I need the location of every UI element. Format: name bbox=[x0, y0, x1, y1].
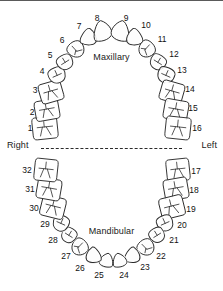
tooth-number-2: 2 bbox=[30, 107, 35, 117]
tooth-number-12: 12 bbox=[169, 49, 178, 59]
tooth-number-5: 5 bbox=[48, 50, 53, 60]
dental-arch-chart: Maxillary Mandibular Right Left 12345678… bbox=[0, 0, 223, 291]
tooth-16[interactable] bbox=[164, 116, 191, 141]
tooth-number-29: 29 bbox=[40, 219, 49, 229]
tooth-number-10: 10 bbox=[141, 20, 150, 30]
tooth-32[interactable] bbox=[33, 158, 58, 183]
tooth-number-32: 32 bbox=[22, 165, 31, 175]
tooth-crown-outline bbox=[164, 116, 191, 140]
tooth-number-30: 30 bbox=[29, 203, 38, 213]
tooth-number-1: 1 bbox=[28, 123, 33, 133]
tooth-number-21: 21 bbox=[169, 235, 178, 245]
tooth-number-6: 6 bbox=[60, 35, 65, 45]
tooth-number-20: 20 bbox=[177, 220, 186, 230]
tooth-number-22: 22 bbox=[156, 251, 165, 261]
tooth-number-15: 15 bbox=[188, 103, 197, 113]
tooth-number-25: 25 bbox=[94, 270, 103, 280]
tooth-number-14: 14 bbox=[185, 84, 194, 94]
tooth-number-26: 26 bbox=[75, 263, 84, 273]
tooth-number-11: 11 bbox=[158, 34, 167, 44]
tooth-number-16: 16 bbox=[192, 123, 201, 133]
midline-divider bbox=[41, 148, 182, 149]
maxillary-arch-label: Maxillary bbox=[0, 52, 223, 62]
tooth-crown-outline bbox=[33, 158, 58, 182]
tooth-number-18: 18 bbox=[189, 185, 198, 195]
right-side-label: Right bbox=[7, 140, 29, 150]
tooth-crown-outline bbox=[37, 79, 65, 105]
teeth-drawing-layer bbox=[0, 0, 223, 291]
tooth-number-7: 7 bbox=[77, 21, 82, 31]
tooth-number-28: 28 bbox=[48, 235, 57, 245]
tooth-number-27: 27 bbox=[61, 251, 70, 261]
tooth-number-24: 24 bbox=[119, 270, 128, 280]
tooth-3[interactable] bbox=[37, 79, 65, 105]
tooth-number-17: 17 bbox=[191, 166, 200, 176]
tooth-number-13: 13 bbox=[177, 65, 186, 75]
tooth-number-23: 23 bbox=[140, 262, 149, 272]
tooth-number-31: 31 bbox=[25, 184, 34, 194]
left-side-label: Left bbox=[202, 140, 217, 150]
tooth-number-4: 4 bbox=[40, 66, 45, 76]
tooth-number-9: 9 bbox=[124, 13, 129, 23]
tooth-number-8: 8 bbox=[95, 13, 100, 23]
tooth-number-3: 3 bbox=[33, 85, 38, 95]
mandibular-arch-label: Mandibular bbox=[0, 226, 223, 236]
tooth-number-19: 19 bbox=[186, 204, 195, 214]
